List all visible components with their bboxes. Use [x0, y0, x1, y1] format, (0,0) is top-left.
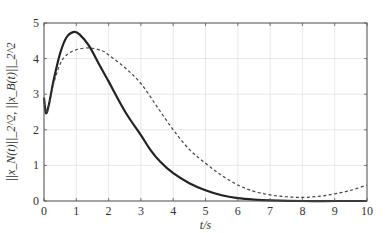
x-tick-label: 3: [138, 204, 144, 218]
line-chart: 012345678910 012345 t/s ||x_N(t)||_2^2, …: [0, 0, 385, 233]
y-tick-label: 2: [33, 123, 39, 137]
y-tick-label: 1: [33, 158, 39, 172]
x-tick-label: 6: [235, 204, 241, 218]
x-tick-label: 5: [203, 204, 209, 218]
x-tick-label: 1: [73, 204, 79, 218]
x-tick-label: 2: [106, 204, 112, 218]
y-tick-label: 4: [33, 52, 39, 66]
x-axis-label: t/s: [200, 218, 212, 232]
x-tick-label: 4: [170, 204, 176, 218]
y-tick-labels: 012345: [33, 16, 39, 208]
y-axis-label: ||x_N(t)||_2^2, ||x_B(t)||_2^2: [4, 42, 18, 181]
x-tick-label: 10: [361, 204, 373, 218]
x-tick-labels: 012345678910: [41, 204, 373, 218]
x-tick-label: 7: [267, 204, 273, 218]
y-tick-label: 0: [33, 194, 39, 208]
y-tick-label: 5: [33, 16, 39, 30]
x-tick-label: 9: [332, 204, 338, 218]
y-tick-label: 3: [33, 87, 39, 101]
x-tick-label: 0: [41, 204, 47, 218]
x-tick-label: 8: [299, 204, 305, 218]
